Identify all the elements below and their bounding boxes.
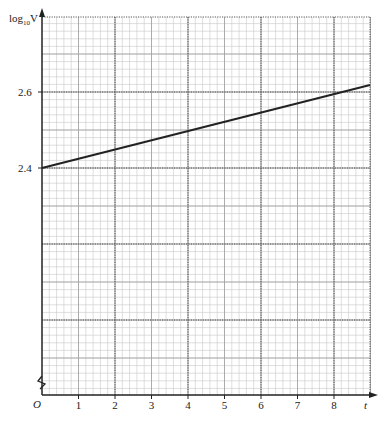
x-tick-label: 6: [258, 399, 264, 411]
x-tick-label: 7: [295, 399, 301, 411]
x-tick-label: 8: [331, 399, 337, 411]
data-line: [42, 85, 370, 168]
x-ticks: 12345678: [76, 395, 338, 411]
chart: 12345678 2.4 2.6 log10V O t: [0, 0, 387, 428]
grid: [42, 17, 371, 395]
x-tick-label: 1: [76, 399, 82, 411]
y-tick-label: 2.4: [18, 162, 32, 174]
x-axis-arrow-icon: [369, 392, 378, 398]
x-tick-label: 2: [112, 399, 118, 411]
origin-label: O: [33, 398, 41, 410]
x-tick-label: 5: [222, 399, 228, 411]
x-tick-label: 3: [149, 399, 155, 411]
x-tick-label: 4: [185, 399, 191, 411]
y-axis-arrow-icon: [39, 8, 45, 17]
x-axis-label: t: [364, 399, 368, 411]
y-tick-label: 2.6: [18, 86, 32, 98]
y-axis-label: log10V: [9, 12, 38, 27]
